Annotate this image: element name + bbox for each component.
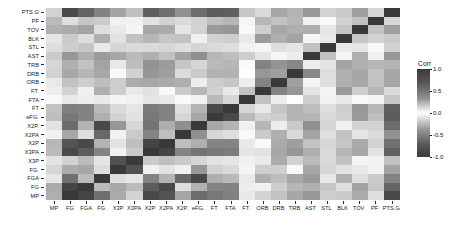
heatmap-cell — [143, 69, 159, 78]
heatmap-cell — [207, 156, 223, 165]
colorbar-tick-label: -0.5 — [433, 132, 443, 138]
heatmap-cell — [271, 104, 287, 113]
heatmap-cell — [352, 130, 368, 139]
heatmap-cell — [46, 113, 62, 122]
heatmap-cell — [239, 43, 255, 52]
heatmap-cell — [352, 183, 368, 192]
heatmap-cell — [336, 43, 352, 52]
heatmap-cell — [207, 183, 223, 192]
heatmap-cell — [110, 43, 126, 52]
heatmap-cell — [352, 113, 368, 122]
heatmap-cell — [368, 78, 384, 87]
heatmap-cell — [255, 69, 271, 78]
heatmap-cell — [352, 52, 368, 61]
heatmap-cell — [368, 130, 384, 139]
heatmap-cell — [191, 183, 207, 192]
heatmap-cell — [352, 8, 368, 17]
heatmap-cell — [255, 104, 271, 113]
heatmap-cell — [303, 165, 319, 174]
heatmap-cell — [303, 78, 319, 87]
heatmap-cell — [126, 25, 142, 34]
heatmap-cell — [175, 60, 191, 69]
heatmap-cell — [384, 174, 400, 183]
heatmap-cell — [110, 148, 126, 157]
heatmap-cell — [191, 8, 207, 17]
heatmap-cell — [126, 113, 142, 122]
heatmap-cell — [223, 8, 239, 17]
heatmap-cell — [143, 165, 159, 174]
heatmap-cell — [207, 113, 223, 122]
heatmap-cell — [287, 52, 303, 61]
heatmap-cell — [62, 130, 78, 139]
heatmap-cell — [223, 52, 239, 61]
colorbar-tick-label: -1.0 — [433, 154, 443, 160]
heatmap-cell — [384, 165, 400, 174]
heatmap-cell — [352, 156, 368, 165]
heatmap-cell — [159, 148, 175, 157]
heatmap-cell — [287, 139, 303, 148]
colorbar-tick-label: 0.0 — [433, 110, 441, 116]
heatmap-cell — [159, 78, 175, 87]
heatmap-cell — [126, 183, 142, 192]
heatmap-cell — [271, 69, 287, 78]
heatmap-cell — [336, 156, 352, 165]
x-axis-tick-label: BLK — [335, 205, 351, 217]
heatmap-cell — [255, 113, 271, 122]
heatmap-cell — [94, 130, 110, 139]
heatmap-cell — [239, 17, 255, 26]
heatmap-cell — [159, 43, 175, 52]
heatmap-cell — [368, 17, 384, 26]
heatmap-cell — [159, 69, 175, 78]
heatmap-cell — [62, 25, 78, 34]
heatmap-cell — [191, 148, 207, 157]
heatmap-cell — [320, 174, 336, 183]
heatmap-cell — [320, 34, 336, 43]
heatmap-cell — [175, 25, 191, 34]
heatmap-cell — [320, 87, 336, 96]
heatmap-cell — [271, 78, 287, 87]
x-axis-tick-label: X2PA — [158, 205, 174, 217]
heatmap-cell — [143, 130, 159, 139]
heatmap-cell — [223, 17, 239, 26]
heatmap-cell — [303, 34, 319, 43]
heatmap-cell — [191, 121, 207, 130]
heatmap-cell — [287, 191, 303, 200]
heatmap-cell — [175, 104, 191, 113]
x-axis-tick-label: FTA — [222, 205, 238, 217]
heatmap-cell — [303, 139, 319, 148]
heatmap-cell — [175, 113, 191, 122]
heatmap-cell — [62, 165, 78, 174]
heatmap-cell — [110, 191, 126, 200]
heatmap-cell — [110, 121, 126, 130]
x-axis-tick-label: X2P. — [174, 205, 190, 217]
heatmap-cell — [46, 52, 62, 61]
y-axis-tick-label: X2PA — [0, 130, 40, 139]
heatmap-cell — [159, 34, 175, 43]
heatmap-cell — [110, 17, 126, 26]
heatmap-cell — [175, 52, 191, 61]
heatmap-cell — [191, 139, 207, 148]
heatmap-cell — [94, 43, 110, 52]
heatmap-cell — [143, 17, 159, 26]
heatmap-cell — [255, 8, 271, 17]
heatmap-cell — [271, 95, 287, 104]
heatmap-cell — [191, 87, 207, 96]
heatmap-cell — [255, 78, 271, 87]
heatmap-cell — [207, 17, 223, 26]
heatmap-cell — [287, 156, 303, 165]
heatmap-cell — [126, 8, 142, 17]
heatmap-cell — [159, 25, 175, 34]
x-axis-tick-label: STL — [319, 205, 335, 217]
heatmap-cell — [207, 87, 223, 96]
heatmap-cell — [94, 78, 110, 87]
heatmap-cell — [352, 104, 368, 113]
heatmap-cell — [126, 156, 142, 165]
heatmap-cell — [159, 183, 175, 192]
heatmap-cell — [110, 25, 126, 34]
heatmap-cell — [239, 60, 255, 69]
heatmap-cell — [336, 121, 352, 130]
heatmap-cell — [320, 43, 336, 52]
heatmap-cell — [239, 52, 255, 61]
heatmap-cell — [352, 174, 368, 183]
heatmap-cell — [352, 87, 368, 96]
